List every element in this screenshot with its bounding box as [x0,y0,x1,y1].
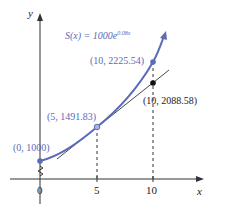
y-axis-arrow-icon [37,13,43,21]
y-axis-label: y [28,8,33,19]
point-label-10-curve: (10, 2225.54) [90,56,144,66]
point-0-1000 [37,158,43,164]
x-tick-label-5: 5 [94,185,100,196]
x-tick-label-0: 0 [37,185,43,196]
function-label: S(x) = 1000e0.08x [65,30,130,41]
x-axis-label: x [197,186,202,197]
function-label-main: S(x) = 1000e [65,30,117,41]
x-tick-label-10: 10 [146,185,157,196]
curve-arrow-icon [160,31,167,40]
x-axis-arrow-icon [196,176,204,182]
point-5-1491 [94,124,100,130]
point-label-5: (5, 1491.83) [47,112,96,122]
chart: y x 0 5 10 S(x) = 1000e0.08x (0, 1000) (… [0,0,226,216]
point-label-10-tangent: (10, 2088.58) [143,96,197,106]
point-label-0: (0, 1000) [13,143,50,153]
point-10-2225 [150,59,156,65]
function-label-exponent: 0.08x [117,30,130,36]
point-10-2088 [150,80,156,86]
